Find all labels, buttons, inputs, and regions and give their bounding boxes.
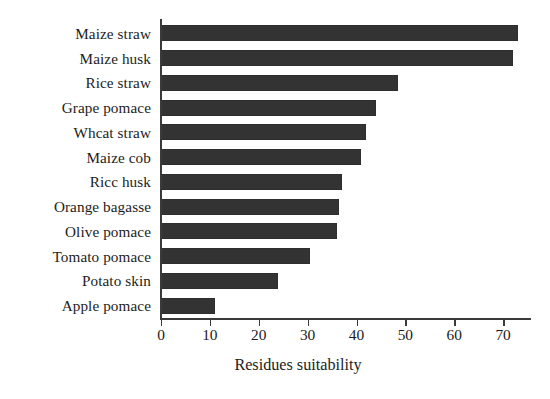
bar-slot	[161, 71, 530, 96]
bar-slot	[161, 21, 530, 46]
category-label: Orange bagasse	[0, 194, 157, 219]
plot-area	[161, 21, 530, 318]
bars-layer	[161, 21, 530, 318]
category-label: Olive pomace	[0, 219, 157, 244]
x-axis-tick	[357, 319, 358, 326]
bar-slot	[161, 46, 530, 71]
bar-chart: Maize strawMaize huskRice strawGrape pom…	[0, 0, 550, 399]
bar	[161, 248, 310, 264]
category-label: Tomato pomace	[0, 244, 157, 269]
bar-slot	[161, 244, 530, 269]
x-axis-tick-label: 0	[157, 327, 165, 342]
bar	[161, 50, 513, 66]
category-label: Potato skin	[0, 269, 157, 294]
bar	[161, 149, 361, 165]
x-axis-tick	[405, 319, 406, 326]
bar	[161, 298, 215, 314]
x-axis-tick-label: 30	[300, 327, 315, 342]
category-label: Rice straw	[0, 71, 157, 96]
x-axis-tick	[308, 319, 309, 326]
x-axis-tick	[454, 319, 455, 326]
bar	[161, 75, 398, 91]
bar-slot	[161, 170, 530, 195]
category-label: Maize straw	[0, 21, 157, 46]
x-axis-tick-label: 50	[398, 327, 413, 342]
category-label: Maize cob	[0, 145, 157, 170]
bar	[161, 199, 339, 215]
x-axis-line	[160, 318, 531, 320]
bar-slot	[161, 120, 530, 145]
bar	[161, 100, 376, 116]
bar	[161, 273, 278, 289]
x-axis-tick-label: 60	[447, 327, 462, 342]
category-label: Ricc husk	[0, 170, 157, 195]
x-axis-tick-label: 70	[495, 327, 510, 342]
y-axis-line	[160, 19, 162, 319]
bar-slot	[161, 95, 530, 120]
category-label: Grape pomace	[0, 95, 157, 120]
bar	[161, 174, 342, 190]
bar	[161, 223, 337, 239]
bar-slot	[161, 293, 530, 318]
category-label: Apple pomace	[0, 293, 157, 318]
category-axis: Maize strawMaize huskRice strawGrape pom…	[0, 21, 157, 318]
bar-slot	[161, 219, 530, 244]
x-axis-tick	[259, 319, 260, 326]
x-axis-tick	[161, 319, 162, 326]
bar-slot	[161, 194, 530, 219]
bar-slot	[161, 269, 530, 294]
x-axis-tick	[210, 319, 211, 326]
x-axis-title: Residues suitability	[0, 357, 550, 373]
category-label: Maize husk	[0, 46, 157, 71]
x-axis-tick-label: 40	[349, 327, 364, 342]
bar-slot	[161, 145, 530, 170]
bar	[161, 25, 518, 41]
bar	[161, 124, 366, 140]
x-axis-tick-label: 20	[251, 327, 266, 342]
category-label: Whcat straw	[0, 120, 157, 145]
x-axis-tick-label: 10	[202, 327, 217, 342]
x-axis-tick	[503, 319, 504, 326]
